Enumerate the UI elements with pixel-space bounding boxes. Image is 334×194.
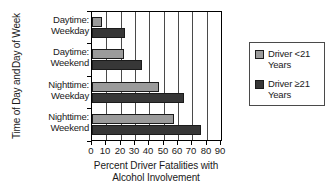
y-axis-title: Time of Day and Day of Week — [2, 11, 30, 141]
category-label-nighttime-weekday: Nighttime: Weekday — [30, 80, 89, 101]
x-axis-title-line-2: Alcohol Involvement — [56, 172, 256, 184]
bar-chart: Time of Day and Day of Week Daytime: Wee… — [0, 0, 334, 194]
gridline-70 — [192, 12, 193, 140]
legend-label-21-plus: Driver ≥21 Years — [268, 79, 310, 100]
y-axis-title-line-1: Time of Day and — [11, 69, 23, 139]
x-axis-title: Percent Driver Fatalities with Alcohol I… — [56, 160, 256, 184]
bar-nighttime-weekend-series-2 — [92, 125, 201, 135]
category-label-daytime-weekend: Daytime: Weekend — [30, 47, 89, 68]
legend-item-driver-under-21: Driver <21 Years — [255, 49, 320, 70]
bar-nighttime-weekend-series-1 — [92, 114, 174, 124]
legend-label-under-21: Driver <21 Years — [268, 49, 310, 70]
y-axis-title-line-2: Day of Week — [11, 13, 23, 68]
x-axis-title-line-1: Percent Driver Fatalities with — [56, 160, 256, 172]
gridline-80 — [207, 12, 208, 140]
x-axis-tick-label-90: 90 — [205, 145, 235, 156]
bar-daytime-weekday-series-1 — [92, 17, 102, 27]
gridline-60 — [178, 12, 179, 140]
bar-nighttime-weekday-series-2 — [92, 93, 184, 103]
category-label-nighttime-weekend: Nighttime: Weekend — [30, 112, 89, 133]
y-axis-category-labels: Daytime: Weekday Daytime: Weekend Nightt… — [30, 11, 89, 141]
legend-swatch-icon-under-21 — [255, 50, 264, 59]
plot-area — [91, 11, 222, 141]
x-axis-tick-labels: 0102030405060708090 — [61, 145, 252, 157]
bar-nighttime-weekday-series-1 — [92, 82, 159, 92]
category-label-daytime-weekday: Daytime: Weekday — [30, 15, 89, 36]
legend-swatch-icon-21-plus — [255, 80, 264, 89]
legend: Driver <21 Years Driver ≥21 Years — [249, 42, 325, 106]
bar-daytime-weekday-series-2 — [92, 28, 125, 38]
bar-daytime-weekend-series-1 — [92, 49, 124, 59]
bar-daytime-weekend-series-2 — [92, 60, 142, 70]
legend-item-driver-21-plus: Driver ≥21 Years — [255, 79, 320, 100]
